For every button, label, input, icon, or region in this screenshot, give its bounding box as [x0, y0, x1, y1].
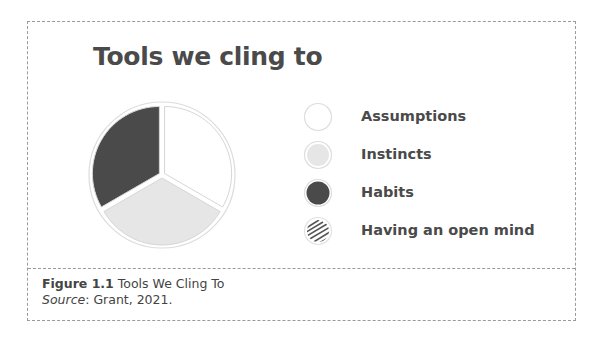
chart-title: Tools we cling to — [93, 42, 322, 71]
figure-frame: Tools we cling to Assumptions — [27, 21, 576, 321]
swatch-white-circle-icon — [303, 102, 333, 132]
legend-label: Assumptions — [361, 108, 466, 124]
figure-caption: Figure 1.1 Tools We Cling To Source: Gra… — [42, 276, 225, 308]
legend: Assumptions Instincts Habits — [303, 100, 563, 252]
swatch-light-gray-circle-icon — [303, 140, 333, 170]
caption-source-label: Source — [42, 292, 85, 307]
legend-item-open-mind: Having an open mind — [303, 214, 563, 252]
legend-item-habits: Habits — [303, 176, 563, 214]
legend-item-assumptions: Assumptions — [303, 100, 563, 138]
caption-source-text: : Grant, 2021. — [85, 292, 172, 307]
caption-title-line: Figure 1.1 Tools We Cling To — [42, 276, 225, 292]
pie-chart — [86, 99, 238, 251]
caption-source-line: Source: Grant, 2021. — [42, 292, 225, 308]
swatch-dark-circle-icon — [303, 178, 333, 208]
caption-figure-text: Tools We Cling To — [114, 276, 225, 291]
legend-item-instincts: Instincts — [303, 138, 563, 176]
swatch-hatched-circle-icon — [303, 216, 333, 246]
legend-label: Instincts — [361, 146, 432, 162]
caption-figure-label: Figure 1.1 — [42, 276, 114, 291]
legend-label: Habits — [361, 184, 414, 200]
legend-label: Having an open mind — [361, 222, 535, 238]
chart-area: Tools we cling to Assumptions — [28, 22, 575, 269]
